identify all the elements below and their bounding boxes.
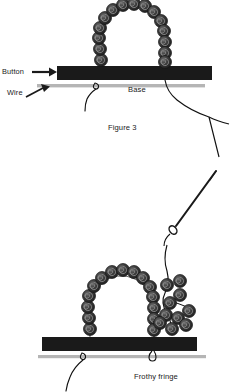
figure-canvas: Button Wire Base Figure 3 Frothy fringe	[0, 0, 245, 392]
lower-wire-line	[38, 355, 206, 358]
top-arch-beads	[93, 0, 172, 69]
lower-figure-group	[38, 245, 206, 391]
lower-arch-beads	[82, 264, 161, 337]
lower-base-bar	[42, 337, 197, 351]
frothy-fringe-caption: Frothy fringe	[134, 373, 178, 381]
label-wire: Wire	[7, 89, 23, 96]
button-arrow	[32, 68, 57, 77]
top-figure-group	[26, 0, 229, 157]
top-base-bar	[57, 66, 212, 80]
top-wire-line	[37, 84, 205, 87]
needle-group	[164, 171, 216, 246]
figure-caption: Figure 3	[108, 124, 137, 132]
label-base: Base	[128, 86, 146, 94]
lower-left-knot	[66, 353, 86, 391]
label-button: Button	[2, 68, 24, 75]
illustration-svg	[0, 0, 245, 392]
top-right-thread	[165, 80, 229, 157]
